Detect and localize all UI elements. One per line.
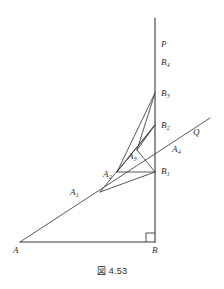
label-base: B bbox=[152, 245, 158, 255]
point-label-B1: B1 bbox=[161, 167, 170, 176]
label-base: A bbox=[128, 151, 134, 161]
right-angle-mark-B bbox=[146, 233, 155, 242]
label-base: B bbox=[161, 120, 167, 130]
label-base: B bbox=[161, 88, 167, 98]
point-label-Q: Q bbox=[193, 128, 200, 137]
segments-group bbox=[20, 18, 210, 242]
point-label-P: P bbox=[161, 40, 167, 49]
point-label-B3: B3 bbox=[161, 89, 170, 98]
label-base: A bbox=[70, 187, 76, 197]
label-subscript: 4 bbox=[178, 149, 181, 155]
figure-caption: 図 4.53 bbox=[0, 264, 224, 277]
geometry-diagram bbox=[0, 0, 224, 289]
label-base: A bbox=[13, 245, 19, 255]
label-base: A bbox=[103, 169, 109, 179]
label-subscript: 4 bbox=[167, 62, 170, 68]
label-subscript: 2 bbox=[167, 125, 170, 131]
segment-A3-B2 bbox=[137, 125, 155, 150]
label-subscript: 1 bbox=[76, 192, 79, 198]
label-base: B bbox=[161, 166, 167, 176]
point-label-B4: B4 bbox=[161, 58, 170, 67]
label-subscript: 2 bbox=[109, 174, 112, 180]
point-label-B: B bbox=[152, 246, 158, 255]
point-label-A2: A2 bbox=[103, 170, 112, 179]
point-label-A1: A1 bbox=[70, 188, 79, 197]
point-label-A3: A3 bbox=[128, 152, 137, 161]
point-label-A: A bbox=[13, 246, 19, 255]
label-subscript: 3 bbox=[167, 93, 170, 99]
segment-A3-B3 bbox=[137, 93, 155, 150]
label-base: P bbox=[161, 39, 167, 49]
point-label-B2: B2 bbox=[161, 121, 170, 130]
label-subscript: 1 bbox=[167, 171, 170, 177]
label-base: A bbox=[172, 144, 178, 154]
segment-A3-B1 bbox=[137, 150, 155, 172]
label-base: Q bbox=[193, 127, 200, 137]
label-base: B bbox=[161, 57, 167, 67]
label-subscript: 3 bbox=[134, 156, 137, 162]
point-label-A4: A4 bbox=[172, 145, 181, 154]
figure-container: PB4B3B2QA4A3B1A2A1AB 図 4.53 bbox=[0, 0, 224, 289]
ray-AQ bbox=[20, 118, 210, 242]
